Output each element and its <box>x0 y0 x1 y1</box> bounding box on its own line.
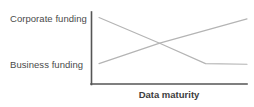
series-line-business-funding <box>99 19 247 64</box>
x-axis-label: Data maturity <box>91 89 247 101</box>
chart-series-group <box>99 18 247 65</box>
chart-axes <box>91 12 247 85</box>
funding-vs-data-maturity-chart: Corporate funding Business funding Data … <box>0 0 254 107</box>
